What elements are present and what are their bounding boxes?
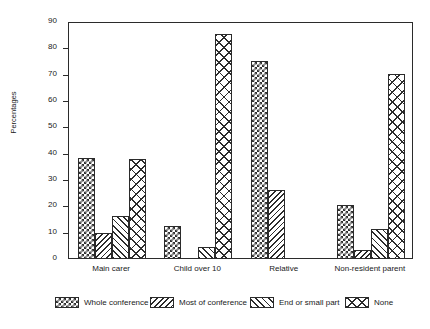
legend-swatch-icon (345, 297, 369, 308)
y-axis-tick: 80 (0, 48, 68, 49)
bars-layer (69, 23, 412, 258)
y-axis-tick-label: 30 (48, 174, 57, 184)
bar-group (251, 23, 319, 258)
chart-legend: Whole conferenceMost of conferenceEnd or… (55, 297, 415, 315)
bar (268, 190, 285, 258)
bar (95, 233, 112, 258)
y-axis-tick-label: 10 (48, 227, 57, 237)
y-axis-tick: 10 (0, 233, 68, 234)
y-axis-tick: 20 (0, 206, 68, 207)
bar (388, 74, 405, 258)
y-axis-tick: 30 (0, 180, 68, 181)
y-axis-tick: 90 (0, 22, 68, 23)
legend-label: Whole conference (84, 297, 148, 308)
bar (198, 247, 215, 258)
y-axis-tick-mark (63, 127, 68, 128)
y-axis-tick-mark (63, 48, 68, 49)
y-axis-tick-label: 80 (48, 42, 57, 52)
y-axis-tick: 40 (0, 154, 68, 155)
bar (129, 159, 146, 258)
legend-swatch-icon (250, 297, 274, 308)
y-axis-tick-label: 40 (48, 148, 57, 158)
x-axis-category-label: Main carer (68, 264, 154, 273)
x-axis-category-label: Child over 10 (154, 264, 240, 273)
y-axis-tick-label: 50 (48, 121, 57, 131)
y-axis-title: Percentages (9, 73, 18, 153)
y-axis-tick-mark (63, 180, 68, 181)
x-axis-category-label: Non-resident parent (327, 264, 413, 273)
y-axis-tick-mark (63, 101, 68, 102)
bar (164, 226, 181, 258)
bar-group (337, 23, 405, 258)
y-axis-tick-label: 20 (48, 200, 57, 210)
bar-group (78, 23, 146, 258)
bar (354, 250, 371, 258)
x-axis-category-label: Relative (241, 264, 327, 273)
legend-item[interactable]: Whole conference (55, 297, 148, 308)
bar (251, 61, 268, 259)
y-axis-tick-mark (63, 233, 68, 234)
y-axis-tick-mark (63, 206, 68, 207)
bar (78, 158, 95, 258)
y-axis-tick-label: 70 (48, 69, 57, 79)
y-axis-tick-mark (63, 154, 68, 155)
y-axis-tick-label: 0 (53, 253, 57, 263)
bar (337, 205, 354, 258)
plot-area (68, 22, 413, 259)
legend-item[interactable]: None (345, 297, 393, 308)
y-axis-tick-mark (63, 75, 68, 76)
bar (371, 229, 388, 258)
legend-swatch-icon (150, 297, 174, 308)
bar-group (164, 23, 232, 258)
legend-label: Most of conference (179, 297, 247, 308)
legend-swatch-icon (55, 297, 79, 308)
bar (215, 34, 232, 258)
y-axis-tick: 0 (0, 259, 68, 260)
legend-label: None (374, 297, 393, 308)
bar-chart-figure: 0102030405060708090 Percentages Main car… (0, 0, 430, 329)
y-axis-tick-label: 60 (48, 95, 57, 105)
bar (112, 216, 129, 258)
legend-item[interactable]: End or small part (250, 297, 339, 308)
legend-item[interactable]: Most of conference (150, 297, 247, 308)
y-axis-tick-label: 90 (48, 16, 57, 26)
legend-label: End or small part (279, 297, 339, 308)
